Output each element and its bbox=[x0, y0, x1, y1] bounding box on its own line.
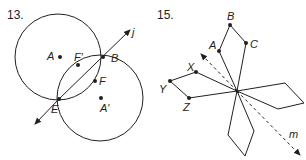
point-c-dot bbox=[244, 41, 248, 45]
line-m-lower-arrow bbox=[237, 91, 300, 155]
point-z-dot bbox=[187, 96, 191, 100]
line-m-label: m bbox=[289, 128, 298, 140]
point-f-prime-dot bbox=[76, 63, 80, 67]
problem-15: 15. m B A C X Y Z bbox=[157, 8, 304, 156]
point-x-label: X bbox=[186, 61, 195, 73]
point-z-label: Z bbox=[182, 101, 191, 113]
point-a-prime-label: A′ bbox=[99, 102, 110, 114]
point-b-label: B bbox=[227, 10, 234, 22]
point-e-label: E bbox=[51, 103, 59, 115]
point-a-dot bbox=[217, 49, 221, 53]
point-a-dot bbox=[58, 55, 62, 59]
point-x-dot bbox=[194, 70, 198, 74]
point-e-dot bbox=[57, 97, 61, 101]
point-b-label: B bbox=[111, 52, 118, 64]
point-y-label: Y bbox=[159, 83, 167, 95]
quad-abc bbox=[219, 25, 246, 91]
rhombus-bottom bbox=[228, 91, 254, 156]
problem-15-number: 15. bbox=[157, 8, 174, 22]
quad-xyz bbox=[170, 72, 237, 98]
point-a-label: A bbox=[208, 39, 216, 51]
problem-13: 13. j A F′ B F E A′ bbox=[7, 8, 143, 141]
point-c-label: C bbox=[250, 38, 258, 50]
point-y-dot bbox=[168, 79, 172, 83]
line-j-label: j bbox=[130, 26, 135, 38]
point-b-dot bbox=[101, 55, 105, 59]
line-m-upper-arrow bbox=[201, 54, 237, 91]
point-a-label: A bbox=[46, 50, 54, 62]
point-b-dot bbox=[228, 23, 232, 27]
center-point-dot bbox=[236, 90, 239, 93]
point-f-prime-label: F′ bbox=[74, 51, 84, 63]
line-j-upper-arrow bbox=[59, 30, 130, 99]
point-f-label: F bbox=[99, 75, 107, 87]
point-a-prime-dot bbox=[99, 96, 103, 100]
point-f-dot bbox=[93, 79, 97, 83]
rhombus-right bbox=[237, 83, 304, 109]
diagram-canvas: 13. j A F′ B F E A′ 15. m B bbox=[0, 0, 306, 160]
problem-13-number: 13. bbox=[7, 8, 24, 22]
